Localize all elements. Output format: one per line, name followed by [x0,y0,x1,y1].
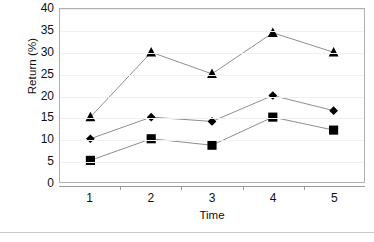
data-point-marker [146,47,156,57]
chart-figure: Return (%) 0510152025303540 12345 Time [0,0,374,242]
data-point-marker [329,47,339,57]
gridline [60,162,364,163]
y-tick-label: 0 [28,177,54,189]
data-point-marker [207,141,216,150]
data-point-marker [329,106,338,115]
gridline [60,140,364,141]
x-tick-mark [181,186,182,190]
gridline [60,31,364,32]
y-tick-label: 35 [28,24,54,36]
x-tick-mark [120,186,121,190]
x-tick-label: 2 [131,191,171,205]
y-tick-label: 30 [28,46,54,58]
data-point-marker [207,69,217,79]
x-tick-mark [243,186,244,190]
data-point-marker [329,126,338,135]
y-tick-label: 5 [28,155,54,167]
x-tick-label: 4 [253,191,293,205]
y-axis-tick-labels: 0510152025303540 [28,0,54,242]
x-axis-line [59,186,365,187]
y-tick-label: 40 [28,2,54,14]
data-point-marker [268,91,277,100]
y-tick-label: 20 [28,90,54,102]
gridline [60,97,364,98]
x-tick-label: 5 [314,191,354,205]
y-tick-label: 10 [28,133,54,145]
gridline [60,75,364,76]
series-layer [60,9,364,182]
x-tick-mark [304,186,305,190]
x-tick-label: 3 [192,191,232,205]
bottom-divider [0,232,374,233]
data-point-marker [268,27,278,37]
data-point-marker [147,134,156,143]
gridline [60,9,364,10]
gridline [60,118,364,119]
data-point-marker [86,156,95,165]
y-tick-label: 15 [28,111,54,123]
x-tick-label: 1 [70,191,110,205]
gridline [60,53,364,54]
plot-area [59,8,365,183]
x-axis-title: Time [59,209,365,221]
y-tick-label: 25 [28,68,54,80]
data-point-marker [86,134,95,143]
